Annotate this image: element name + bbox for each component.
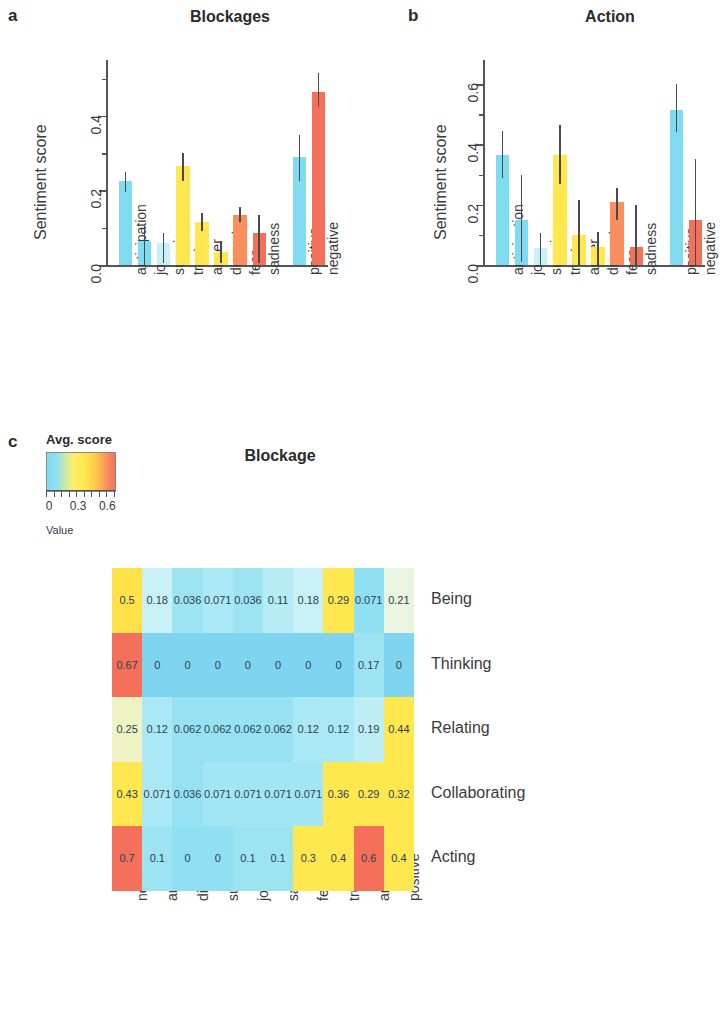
heatmap-cell-value: 0 (215, 852, 221, 864)
errorbar-negative (695, 159, 697, 265)
colorbar-tick-label: 0.3 (67, 499, 89, 513)
heatmap-cell-value: 0.3 (301, 852, 316, 864)
bar-anticipation (119, 181, 132, 265)
y-tick (102, 79, 106, 81)
heatmap-cell: 0 (172, 633, 202, 698)
heatmap-cell: 0.11 (263, 568, 293, 633)
heatmap-cell: 0.4 (384, 826, 414, 891)
errorbar-sadness (258, 215, 260, 263)
heatmap-cell-value: 0.062 (234, 723, 262, 735)
heatmap-cell-value: 0.12 (147, 723, 168, 735)
heatmap-cell-value: 0.071 (234, 788, 262, 800)
heatmap-cell: 0.18 (293, 568, 323, 633)
heatmap-cell-value: 0.18 (298, 594, 319, 606)
x-label-sadness: sadness (266, 223, 282, 275)
heatmap-cell-value: 0.67 (116, 659, 137, 671)
heatmap-cell: 0.18 (142, 568, 172, 633)
errorbar-joy (521, 175, 523, 262)
heatmap-cell: 0.25 (112, 697, 142, 762)
heatmap-cell-value: 0.29 (328, 594, 349, 606)
heatmap-cell-value: 0 (154, 659, 160, 671)
errorbar-fear (616, 188, 618, 220)
y-tick-label: 0.2 (465, 204, 481, 244)
heatmap-cell: 0 (203, 826, 233, 891)
heatmap-row-label-Being: Being (431, 590, 472, 608)
heatmap-cell-value: 0 (396, 659, 402, 671)
heatmap-cell-value: 0.1 (150, 852, 165, 864)
heatmap-cell-value: 0.036 (174, 788, 202, 800)
heatmap-cell-value: 0.062 (264, 723, 292, 735)
heatmap-cell-value: 0.4 (331, 852, 346, 864)
heatmap-cell: 0.071 (354, 568, 384, 633)
heatmap-cell: 0.062 (233, 697, 263, 762)
heatmap-cell: 0.32 (384, 762, 414, 827)
heatmap-cell: 0.17 (354, 633, 384, 698)
heatmap-cell-value: 0.071 (204, 788, 232, 800)
errorbar-anticipation (502, 131, 504, 178)
heatmap-cell: 0.071 (263, 762, 293, 827)
heatmap-cell: 0.4 (323, 826, 353, 891)
heatmap-cell: 0.67 (112, 633, 142, 698)
errorbar-positive (676, 84, 678, 132)
y-tick-label: 0.4 (88, 115, 104, 155)
heatmap-cell: 0.44 (384, 697, 414, 762)
heatmap-cell: 0.29 (323, 568, 353, 633)
errorbar-trust (559, 125, 561, 184)
heatmap-cell-value: 0.036 (174, 594, 202, 606)
heatmap-cell-value: 0.036 (234, 594, 262, 606)
y-tick-label: 0.0 (88, 264, 104, 304)
panel-c-title: Blockage (180, 447, 380, 465)
heatmap-cell: 0.062 (203, 697, 233, 762)
colorbar-tick-label: 0.6 (96, 499, 118, 513)
heatmap-cell-value: 0.12 (298, 723, 319, 735)
heatmap-cell-value: 0.7 (119, 852, 134, 864)
colorbar-tick (46, 490, 47, 497)
heatmap-cell-value: 0.5 (119, 594, 134, 606)
y-axis-line (483, 60, 485, 265)
heatmap-cell-value: 0 (215, 659, 221, 671)
heatmap-cell-value: 0 (335, 659, 341, 671)
heatmap-cell: 0.7 (112, 826, 142, 891)
heatmap-cell: 0.12 (293, 697, 323, 762)
heatmap-cell-value: 0.1 (270, 852, 285, 864)
panel-a-letter: a (8, 6, 17, 26)
heatmap-row-label-Relating: Relating (431, 719, 490, 737)
heatmap-cell: 0 (293, 633, 323, 698)
heatmap-cell: 0 (263, 633, 293, 698)
y-axis-line (106, 60, 108, 265)
heatmap-cell: 0.12 (142, 697, 172, 762)
errorbar-sadness (635, 205, 637, 265)
heatmap-cell-value: 0.32 (388, 788, 409, 800)
heatmap-cell: 0.062 (172, 697, 202, 762)
errorbar-anticipation (125, 172, 127, 193)
heatmap-cell: 0.29 (354, 762, 384, 827)
colorbar-gradient (46, 452, 116, 492)
heatmap-cell: 0 (203, 633, 233, 698)
panel-a-title: Blockages (110, 8, 350, 26)
heatmap-cell: 0.6 (354, 826, 384, 891)
heatmap-cell: 0 (384, 633, 414, 698)
heatmap-row-label-Collaborating: Collaborating (431, 784, 525, 802)
errorbar-fear (239, 207, 241, 222)
heatmap-cell-value: 0.21 (388, 594, 409, 606)
heatmap-cell-value: 0.12 (328, 723, 349, 735)
heatmap-cell-value: 0.071 (144, 788, 172, 800)
heatmap-cell: 0 (323, 633, 353, 698)
heatmap-cell-value: 0.071 (295, 788, 323, 800)
heatmap-cell: 0.19 (354, 697, 384, 762)
heatmap-cell: 0.036 (172, 762, 202, 827)
heatmap-cell-value: 0.19 (358, 723, 379, 735)
heatmap-cell: 0.21 (384, 568, 414, 633)
x-label-negative: negative (702, 222, 718, 275)
heatmap-cell-value: 0.1 (240, 852, 255, 864)
y-tick-label: 0.0 (465, 264, 481, 304)
heatmap-row-label-Thinking: Thinking (431, 655, 491, 673)
errorbar-anger (201, 213, 203, 232)
heatmap-cell: 0.071 (203, 762, 233, 827)
errorbar-surprise (163, 233, 165, 263)
errorbar-negative (318, 73, 320, 107)
panel-b-title: Action (510, 8, 710, 26)
colorbar-tick (99, 490, 100, 497)
heatmap-cell-value: 0.44 (388, 723, 409, 735)
heatmap-cell-value: 0 (184, 852, 190, 864)
